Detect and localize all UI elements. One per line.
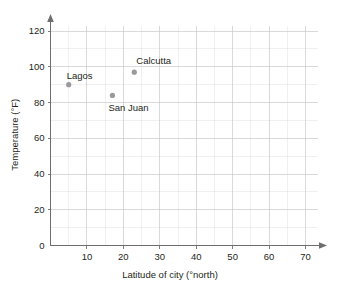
y-axis-title: Temperature (°F) — [10, 75, 20, 195]
x-axis-title: Latitude of city (°north) — [0, 270, 340, 280]
x-tick-label-30: 30 — [140, 252, 180, 262]
y-tick-label-20: 20 — [5, 205, 45, 215]
point-label-lagos: Lagos — [67, 71, 93, 81]
point-label-san-juan: San Juan — [108, 103, 148, 113]
point-label-calcutta: Calcutta — [136, 56, 171, 66]
x-tick-label-20: 20 — [103, 252, 143, 262]
scatter-plot-figure: 10203040506070020406080100120LagosSan Ju… — [0, 0, 340, 292]
minor-gridlines — [51, 26, 319, 246]
axis-ticks — [48, 31, 306, 248]
x-tick-label-70: 70 — [286, 252, 326, 262]
x-tick-label-50: 50 — [213, 252, 253, 262]
y-tick-label-120: 120 — [5, 26, 45, 36]
major-gridlines — [51, 26, 319, 246]
y-tick-label-100: 100 — [5, 62, 45, 72]
y-tick-label-0: 0 — [5, 241, 45, 251]
x-tick-label-10: 10 — [67, 252, 107, 262]
x-tick-label-60: 60 — [249, 252, 289, 262]
plot-canvas — [0, 0, 340, 292]
x-tick-label-40: 40 — [176, 252, 216, 262]
axis-lines — [47, 14, 327, 249]
